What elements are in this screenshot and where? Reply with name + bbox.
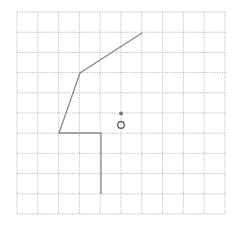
marker-dot xyxy=(119,112,123,116)
grid-diagram xyxy=(0,0,238,233)
